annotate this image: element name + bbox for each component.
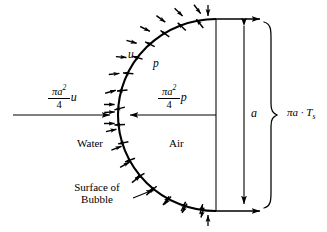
bubble-force-diagram: πa2 4 u πa2 4 p u p Water Air Surface of… <box>0 0 327 232</box>
axis-arrow-pair <box>104 105 115 124</box>
momentum-flux-numerator: πa2 <box>50 84 68 98</box>
pressure-force-symbol: p <box>181 91 187 104</box>
air-region-label: Air <box>169 138 184 150</box>
pressure-force-denominator: 4 <box>158 98 180 111</box>
surface-of-bubble-line-1: Surface of <box>60 182 134 194</box>
velocity-symbol-label: u <box>128 48 134 60</box>
surface-tension-subscript: s <box>312 112 315 121</box>
momentum-flux-label: πa2 4 u <box>50 84 77 111</box>
surface-of-bubble-label: Surface of Bubble <box>60 182 134 205</box>
surface-of-bubble-line-2: Bubble <box>60 194 134 206</box>
pressure-force-fraction: πa2 4 <box>160 84 178 111</box>
curly-brace <box>264 22 277 208</box>
radius-dimension-label: a <box>251 107 257 120</box>
surface-tension-expression: πa · T <box>287 106 312 118</box>
momentum-flux-fraction: πa2 4 <box>50 84 68 111</box>
momentum-flux-symbol: u <box>71 91 77 104</box>
pressure-force-label: πa2 4 p <box>160 84 187 111</box>
pressure-symbol-label: p <box>153 57 159 69</box>
momentum-flux-denominator: 4 <box>48 98 70 111</box>
diagram-canvas <box>0 0 327 232</box>
pressure-force-numerator: πa2 <box>160 84 178 98</box>
surface-tension-label: πa · Ts <box>287 107 315 121</box>
water-region-label: Water <box>77 138 103 150</box>
